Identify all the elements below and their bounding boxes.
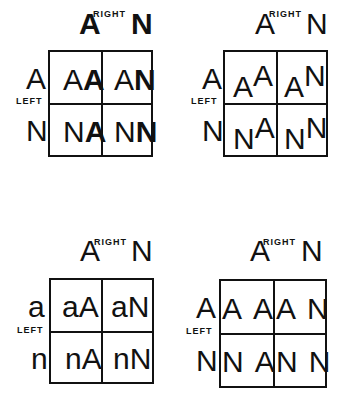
column-header-n: N <box>301 236 323 266</box>
row-header-a: A <box>202 64 222 94</box>
right-label: RIGHT <box>263 238 296 247</box>
row-header-a: A <box>196 293 216 323</box>
panel-raised-second: A RIGHT N A LEFT N AA AN NA NN <box>173 0 346 200</box>
matrix-grid: AA AN NA NN <box>219 279 327 388</box>
cell-nn: NN <box>276 347 330 377</box>
column-header-n: N <box>131 236 153 266</box>
right-label: RIGHT <box>269 10 302 19</box>
cell-an: AN <box>276 294 329 324</box>
matrix-grid: aA aN nA nN <box>49 278 154 384</box>
row-header-a: A <box>26 64 46 94</box>
right-label: RIGHT <box>94 238 127 247</box>
cell-aa: aA <box>62 292 99 322</box>
panel-spaced: A RIGHT N A LEFT N AA AN NA NN <box>173 200 346 400</box>
right-label: RIGHT <box>93 10 126 19</box>
cell-nn: nN <box>113 344 151 374</box>
row-header-n: n <box>31 344 48 374</box>
panel-bold-second: A RIGHT N A LEFT N AA AN NA NN <box>0 0 173 200</box>
row-header-a: a <box>28 292 45 322</box>
cell-aa: AA <box>233 72 273 102</box>
cell-na: NA <box>222 347 275 377</box>
row-header-n: N <box>196 346 218 376</box>
grid-divider-horizontal <box>225 103 326 105</box>
row-header-n: N <box>202 116 224 146</box>
matrix-grid: AA AN NA NN <box>48 50 153 157</box>
grid-divider-horizontal <box>221 333 325 335</box>
cell-na: NA <box>233 124 275 154</box>
cell-aa: AA <box>222 294 273 324</box>
cell-an: AN <box>114 65 156 95</box>
left-label: LEFT <box>191 97 218 106</box>
cell-nn: NN <box>114 117 157 147</box>
cell-aa: AA <box>63 65 105 95</box>
cell-an: aN <box>111 292 149 322</box>
left-label: LEFT <box>16 97 43 106</box>
matrix-grid: AA AN NA NN <box>223 50 328 157</box>
cell-nn: NN <box>284 124 327 154</box>
left-label: LEFT <box>17 326 44 335</box>
grid-divider-horizontal <box>51 331 152 333</box>
row-header-n: N <box>26 116 48 146</box>
cell-an: AN <box>284 72 326 102</box>
left-label: LEFT <box>186 327 213 336</box>
column-header-n: N <box>131 9 153 39</box>
cell-na: NA <box>63 117 106 147</box>
cell-na: nA <box>65 344 102 374</box>
grid-divider-horizontal <box>50 103 151 105</box>
panel-lowercase-first: A RIGHT N a LEFT n aA aN nA nN <box>0 200 173 400</box>
column-header-n: N <box>306 9 328 39</box>
